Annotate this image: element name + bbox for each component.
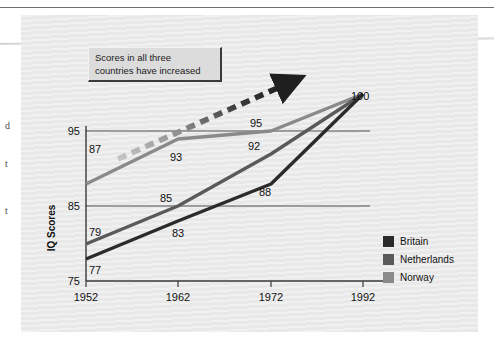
point-label-britain-1962: 83 bbox=[172, 227, 184, 239]
point-label-britain-1972: 88 bbox=[259, 186, 271, 198]
series-line-norway bbox=[86, 94, 363, 184]
x-tick-label-1962: 1962 bbox=[166, 291, 190, 303]
y-tick-label-75: 75 bbox=[68, 275, 80, 287]
legend-label-norway: Norway bbox=[400, 272, 434, 283]
point-label-norway-1952: 87 bbox=[89, 143, 101, 155]
chart-legend: Britain Netherlands Norway bbox=[383, 233, 454, 287]
legend-swatch-netherlands bbox=[383, 254, 394, 265]
point-label-netherlands-1962: 85 bbox=[160, 192, 172, 204]
point-label-norway-1962: 93 bbox=[170, 151, 182, 163]
line-chart: 95 85 75 1952 1962 1972 1992 IQ Scores 8… bbox=[0, 0, 494, 349]
point-label-converged-1992: 100 bbox=[351, 90, 369, 102]
point-label-netherlands-1972: 92 bbox=[248, 140, 260, 152]
y-tick-label-85: 85 bbox=[68, 200, 80, 212]
legend-item-britain: Britain bbox=[383, 233, 454, 249]
callout-text: Scores in all three countries have incre… bbox=[95, 52, 220, 77]
page-root: d t t 95 85 75 1952 bbox=[0, 0, 494, 349]
legend-label-netherlands: Netherlands bbox=[400, 254, 454, 265]
legend-label-britain: Britain bbox=[400, 236, 428, 247]
point-label-netherlands-1952: 79 bbox=[89, 226, 101, 238]
legend-swatch-norway bbox=[383, 272, 394, 283]
point-label-britain-1952: 77 bbox=[89, 264, 101, 276]
legend-item-norway: Norway bbox=[383, 269, 454, 285]
point-label-norway-1972: 95 bbox=[250, 117, 262, 129]
legend-item-netherlands: Netherlands bbox=[383, 251, 454, 267]
callout-box: Scores in all three countries have incre… bbox=[88, 47, 222, 82]
series-line-britain bbox=[86, 94, 363, 259]
series-line-netherlands bbox=[86, 94, 363, 244]
y-tick-label-95: 95 bbox=[68, 125, 80, 137]
y-axis-title: IQ Scores bbox=[46, 204, 57, 251]
legend-swatch-britain bbox=[383, 236, 394, 247]
x-tick-label-1992: 1992 bbox=[351, 291, 375, 303]
x-tick-label-1972: 1972 bbox=[259, 291, 283, 303]
x-tick-label-1952: 1952 bbox=[74, 291, 98, 303]
